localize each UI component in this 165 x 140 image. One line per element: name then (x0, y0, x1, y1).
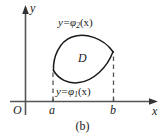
figure-caption: (b) (0, 119, 165, 134)
lower-curve-equation: y=φ1(x) (56, 86, 91, 98)
figure-container: y x O a b D y=φ2(x) y=φ1(x) (b) (0, 0, 165, 140)
x-tick-label-a: a (49, 104, 55, 116)
x-axis-label: x (152, 105, 157, 117)
x-tick-label-b: b (110, 104, 116, 116)
y-axis-arrowhead (22, 5, 29, 14)
lower-curve-argument: (x) (78, 85, 91, 97)
region-label-d: D (78, 52, 87, 64)
upper-curve-argument: (x) (80, 16, 93, 28)
origin-label: O (13, 104, 22, 116)
upper-curve-equation: y=φ2(x) (58, 17, 93, 29)
y-axis-label: y (30, 2, 35, 14)
